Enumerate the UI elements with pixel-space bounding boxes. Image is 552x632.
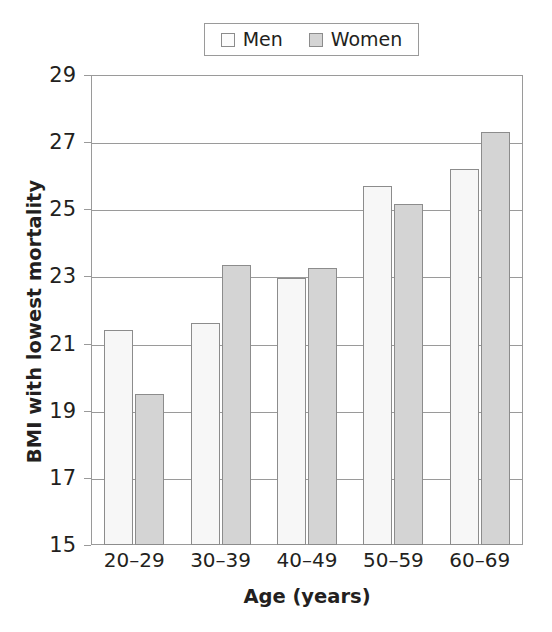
y-tick-mark [84,344,91,345]
gridline [92,345,522,346]
gridline [92,143,522,144]
y-tick-label: 29 [36,63,76,87]
legend-swatch-women-icon [309,33,323,47]
y-tick-mark [84,411,91,412]
y-tick-mark [84,209,91,210]
legend-entry-men: Men [221,30,283,49]
x-tick-label: 50–59 [363,548,424,572]
x-tick-label: 60–69 [449,548,510,572]
y-tick-mark [84,545,91,546]
bmi-age-bar-chart: Men Women BMI with lowest mortality 1517… [0,0,552,632]
y-tick-mark [84,276,91,277]
y-tick-label: 15 [36,533,76,557]
gridlines [92,76,522,544]
y-tick-label: 21 [36,332,76,356]
chart-legend: Men Women [204,23,419,56]
y-tick-label: 23 [36,264,76,288]
y-tick-mark [84,75,91,76]
legend-label-men: Men [243,30,283,49]
gridline [92,412,522,413]
y-tick-label: 27 [36,130,76,154]
legend-label-women: Women [331,30,403,49]
gridline [92,210,522,211]
y-tick-mark [84,142,91,143]
x-tick-label: 20–29 [104,548,165,572]
x-tick-label: 40–49 [277,548,338,572]
y-axis: 1517192123252729 [0,75,84,545]
gridline [92,479,522,480]
legend-entry-women: Women [309,30,403,49]
plot-area [91,75,523,545]
y-tick-label: 17 [36,466,76,490]
x-tick-label: 30–39 [190,548,251,572]
gridline [92,277,522,278]
x-axis-title: Age (years) [91,585,523,608]
y-tick-label: 25 [36,197,76,221]
y-tick-label: 19 [36,399,76,423]
x-axis: 20–2930–3940–4950–5960–69 [91,548,523,580]
legend-swatch-men-icon [221,33,235,47]
y-tick-mark [84,478,91,479]
